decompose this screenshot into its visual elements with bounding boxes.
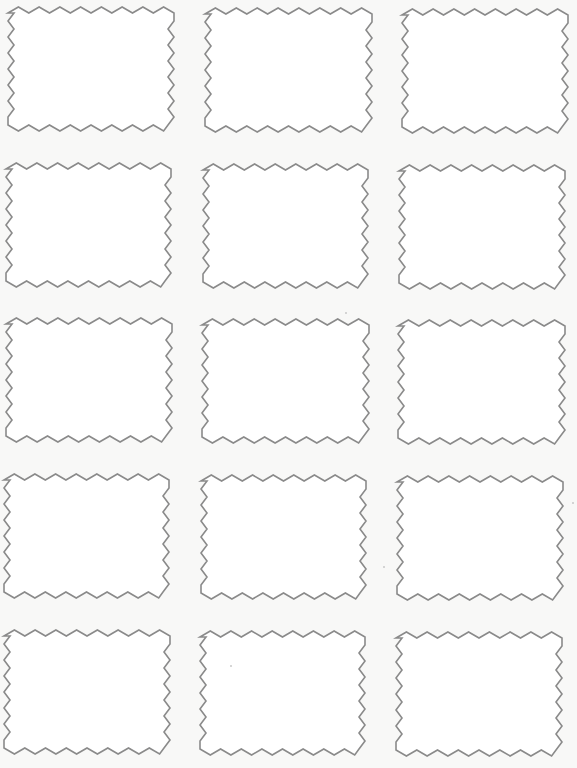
label-outline-r1-c3: [402, 9, 568, 133]
label-outline-r2-c1: [6, 163, 171, 287]
zigzag-border: [200, 631, 365, 755]
zigzag-border: [6, 318, 172, 442]
zigzag-border: [202, 319, 369, 443]
zigzag-border: [6, 163, 171, 287]
label-outline-r5-c3: [396, 632, 562, 756]
zigzag-border: [203, 164, 368, 288]
scan-speck: [383, 566, 385, 568]
label-outline-r2-c2: [203, 164, 368, 288]
zigzag-border: [205, 8, 372, 132]
zigzag-border: [201, 475, 366, 599]
label-outline-r4-c1: [4, 474, 169, 598]
scan-speck: [345, 312, 347, 314]
label-outline-r5-c2: [200, 631, 365, 755]
zigzag-border: [396, 632, 562, 756]
zigzag-border: [398, 320, 565, 444]
label-outline-r3-c2: [202, 319, 369, 443]
zigzag-border: [402, 9, 568, 133]
scan-speck: [230, 665, 232, 667]
label-sheet: [0, 0, 577, 768]
label-outline-r2-c3: [399, 165, 565, 289]
label-outline-r1-c1: [8, 7, 174, 131]
label-outline-r4-c3: [397, 476, 563, 600]
label-outline-r5-c1: [4, 630, 170, 754]
zigzag-border: [399, 165, 565, 289]
label-outline-r3-c3: [398, 320, 565, 444]
label-outline-r4-c2: [201, 475, 366, 599]
zigzag-border: [397, 476, 563, 600]
zigzag-border: [8, 7, 174, 131]
label-outline-r1-c2: [205, 8, 372, 132]
zigzag-border: [4, 474, 169, 598]
label-outline-r3-c1: [6, 318, 172, 442]
zigzag-border: [4, 630, 170, 754]
scan-speck: [572, 502, 574, 504]
